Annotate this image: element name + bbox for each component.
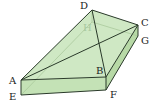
label-e: E	[9, 91, 16, 102]
label-c: C	[141, 17, 149, 28]
top-face-abcd	[21, 10, 138, 80]
label-g: G	[141, 35, 149, 46]
solid-diagram: D C G H B A E F	[0, 0, 163, 109]
label-f: F	[110, 89, 117, 100]
label-h: H	[83, 22, 92, 33]
label-d: D	[80, 0, 88, 11]
label-b: B	[96, 65, 103, 76]
label-a: A	[8, 75, 17, 86]
